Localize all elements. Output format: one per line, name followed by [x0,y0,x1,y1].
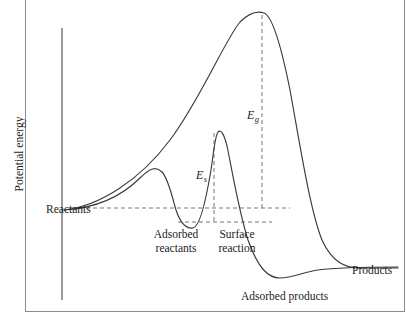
gas-activation-energy-subscript: g [255,114,259,124]
label-adsorbed-reactants: Adsorbed reactants [145,228,207,255]
catalyzed-surface-curve [64,131,398,278]
gas-activation-energy-symbol: E [247,108,254,122]
surface-activation-energy-subscript: s [204,174,207,184]
reaction-energy-plot [0,0,406,330]
label-adsorbed-reactants-line2: reactants [156,242,197,254]
label-products: Products [352,264,392,278]
label-surface-reaction-line1: Surface [219,228,254,240]
label-adsorbed-reactants-line1: Adsorbed [154,228,199,240]
label-surface-reaction-line2: reaction [218,242,255,254]
y-axis-label: Potential energy [13,99,25,209]
surface-activation-energy-annotation: Es [196,168,207,183]
surface-activation-energy-symbol: E [196,168,203,182]
label-reactants: Reactants [46,203,91,217]
figure-root: Potential energy Reactants Adsorbed reac… [0,0,406,330]
label-surface-reaction: Surface reaction [209,228,265,255]
gas-activation-energy-annotation: Eg [247,108,259,123]
label-adsorbed-products: Adsorbed products [241,290,328,304]
